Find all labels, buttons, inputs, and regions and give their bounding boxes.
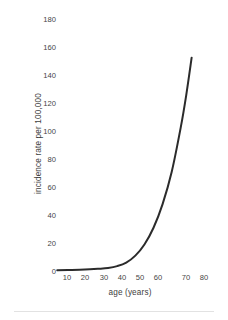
x-axis-tick-labels: 10 20 30 40 50 60 70 80 [0, 274, 228, 286]
plot-area [0, 0, 228, 320]
x-axis-title: age (years) [40, 288, 220, 297]
incidence-rate-curve [57, 58, 191, 271]
x-tick-60: 60 [147, 274, 169, 282]
chart-figure: incidence rate per 100,000 180 160 140 1… [0, 0, 228, 320]
x-tick-80: 80 [193, 274, 215, 282]
footer-divider [14, 311, 214, 312]
